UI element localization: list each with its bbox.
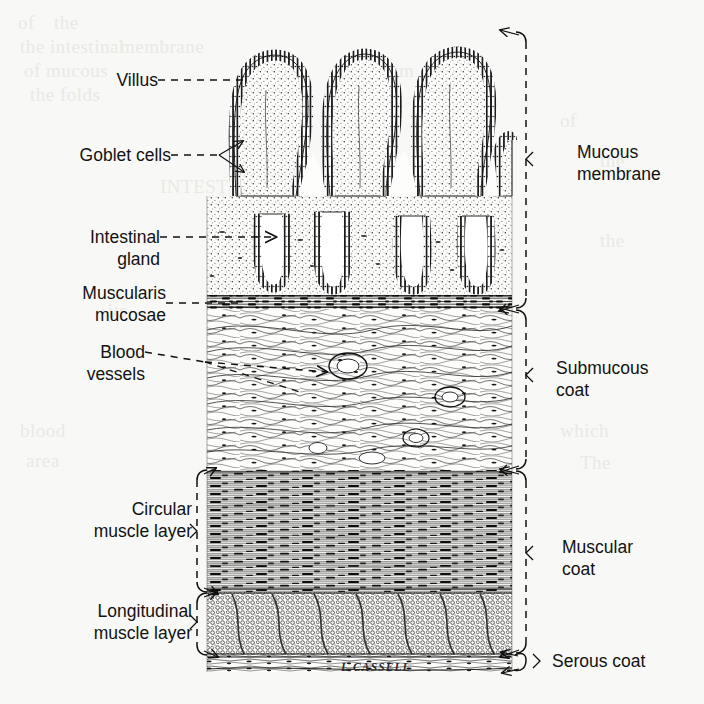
label-villus: Villus xyxy=(20,69,158,91)
longitudinal-muscle-layer xyxy=(207,592,512,655)
tissue-illustration xyxy=(207,52,512,672)
label-submucous-coat: Submucous coat xyxy=(556,357,696,401)
label-muscularis-mucosae: Muscularis mucosae xyxy=(10,282,166,326)
label-longitudinal-muscle-layer: Longitudinal muscle layer xyxy=(10,600,192,644)
label-mucous-membrane: Mucous membrane xyxy=(577,141,702,185)
label-blood-vessels: Blood vessels xyxy=(20,341,145,385)
mucous-membrane-layer xyxy=(207,52,512,297)
label-serous-coat: Serous coat xyxy=(552,650,702,672)
label-muscular-coat: Muscular coat xyxy=(562,536,692,580)
artist-signature: L.CASSELL xyxy=(341,661,411,673)
submucous-coat-layer xyxy=(207,309,512,470)
label-goblet-cells: Goblet cells xyxy=(20,144,171,166)
label-intestinal-gland: Intestinal gland xyxy=(20,226,160,270)
label-circular-muscle-layer: Circular muscle layer xyxy=(10,498,192,542)
villus-group xyxy=(234,52,512,196)
circular-muscle-layer xyxy=(207,470,512,592)
